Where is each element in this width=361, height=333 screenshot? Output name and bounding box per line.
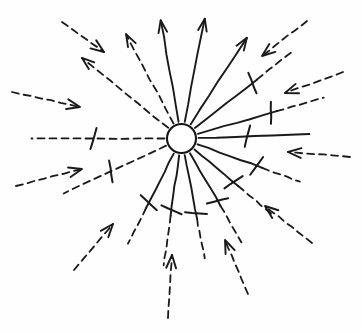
inbound-arrowhead-in-sse — [225, 240, 235, 254]
inbound-arrow-in-ene — [285, 72, 343, 93]
ray-ray-ssw — [171, 155, 179, 215]
inbound-arrow-in-sse — [225, 240, 248, 294]
ray-dashed-ray-ese — [262, 168, 300, 182]
ray-dashed-ray-ssw — [164, 216, 171, 266]
inbound-arrow-in-sw — [74, 224, 113, 270]
ray-ray-nne — [191, 38, 247, 124]
figure-root: Radial ray diagram Hand-drawn radial bur… — [0, 0, 361, 333]
ray-dashed-ray-sw — [128, 208, 146, 244]
ray-dashed-ray-s — [197, 219, 205, 258]
inbound-shaft-in-sw — [74, 224, 113, 270]
inbound-arrow-in-nw — [62, 22, 104, 52]
inbound-arrow-in-e — [288, 148, 350, 158]
inbound-shaft-in-sse — [225, 240, 248, 294]
ray-ray-ene — [198, 111, 277, 134]
inbound-arrow-in-wsw — [16, 167, 82, 186]
ray-ray-se — [195, 149, 239, 186]
ray-ray-sw — [146, 154, 174, 208]
ray-dashed-ray-ene — [277, 98, 324, 112]
tick-ray-sw — [141, 195, 157, 210]
ray-dashed-ray-w — [32, 138, 165, 139]
ray-ray-s — [185, 155, 197, 219]
inbound-arrows-layer — [12, 21, 350, 318]
ray-dashed-ray-sse — [221, 206, 242, 242]
inbound-arrow-in-wnw — [12, 92, 80, 109]
ray-ray-e — [198, 134, 309, 138]
tick-ray-ese — [250, 157, 263, 175]
inbound-arrow-in-ne — [262, 21, 307, 56]
inbound-arrowhead-in-wsw — [68, 167, 82, 177]
inbound-arrow-in-s — [166, 255, 176, 318]
tick-ray-s — [185, 212, 207, 214]
inbound-shaft-in-nw — [62, 22, 104, 52]
ray-ray-nnw — [161, 20, 179, 121]
ray-dashed-ray-wnw — [82, 58, 168, 128]
inbound-arrowhead-in-wnw — [66, 99, 80, 109]
center-circle — [167, 124, 196, 153]
inbound-shaft-in-se — [265, 206, 312, 243]
ray-ray-sse — [190, 153, 221, 206]
inbound-shaft-in-wsw — [16, 169, 82, 186]
tick-ray-ne — [248, 73, 256, 93]
radial-ray-diagram: Radial ray diagram Hand-drawn radial bur… — [0, 0, 361, 333]
ray-ray-ese — [197, 144, 262, 168]
inbound-arrow-in-se — [265, 206, 312, 243]
inbound-shaft-in-ene — [285, 72, 343, 93]
inbound-shaft-in-ne — [262, 21, 307, 56]
